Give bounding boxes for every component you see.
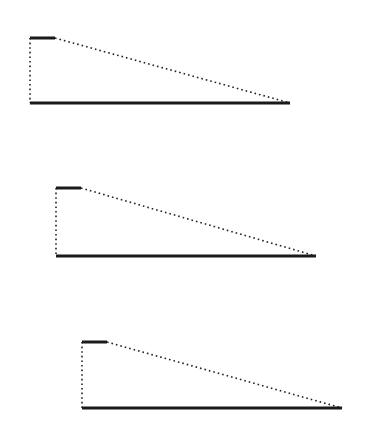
- figure-3: [82, 342, 342, 408]
- diagonal-dotted-line: [55, 38, 290, 103]
- diagonal-dotted-line: [81, 188, 316, 256]
- diagram-canvas: [0, 0, 375, 440]
- diagonal-dotted-line: [107, 342, 342, 408]
- figure-1: [30, 38, 290, 103]
- figure-2: [56, 188, 316, 256]
